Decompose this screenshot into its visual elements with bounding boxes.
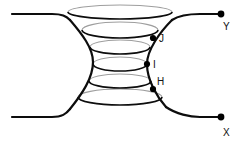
label-J: J bbox=[159, 33, 164, 44]
label-H: H bbox=[157, 76, 164, 87]
diagram-canvas: Y X J I H bbox=[0, 0, 243, 147]
point-X-marker bbox=[218, 114, 225, 121]
label-I: I bbox=[153, 59, 156, 70]
label-X: X bbox=[223, 127, 230, 138]
hyperboloid-diagram: Y X J I H bbox=[0, 0, 243, 147]
point-J-marker bbox=[150, 35, 156, 41]
point-Y-marker bbox=[218, 11, 225, 18]
label-Y: Y bbox=[223, 21, 230, 32]
point-I-marker bbox=[144, 61, 150, 67]
point-H-marker bbox=[150, 86, 156, 92]
